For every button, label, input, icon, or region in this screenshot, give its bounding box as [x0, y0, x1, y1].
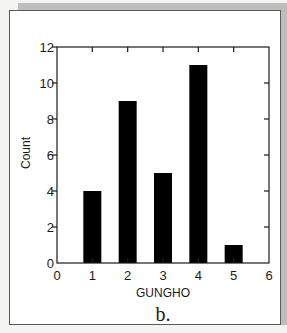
y-tick-label: 8: [47, 112, 54, 127]
bars-group: [83, 65, 242, 263]
bar-2: [119, 101, 137, 263]
x-tick-label: 6: [265, 268, 272, 283]
y-tick-label: 4: [47, 184, 54, 199]
figure-caption: b.: [156, 303, 171, 325]
x-tick-label: 1: [89, 268, 96, 283]
y-tick-label: 2: [47, 220, 54, 235]
x-tick-labels: 0123456: [53, 268, 272, 283]
x-tick-label: 3: [159, 268, 166, 283]
x-tick-label: 0: [53, 268, 60, 283]
bar-1: [83, 191, 101, 263]
y-tick-label: 0: [47, 256, 54, 271]
y-tick-label: 10: [40, 76, 54, 91]
bar-4: [189, 65, 207, 263]
y-tick-labels: 024681012: [40, 40, 54, 271]
x-tick-label: 4: [195, 268, 202, 283]
y-tick-label: 6: [47, 148, 54, 163]
y-tick-label: 12: [40, 40, 54, 55]
x-tick-label: 5: [230, 268, 237, 283]
y-axis-title: Count: [19, 136, 33, 169]
bar-3: [154, 173, 172, 263]
x-tick-label: 2: [124, 268, 131, 283]
x-axis-title: GUNGHO: [136, 286, 190, 300]
bar-chart: 0123456 024681012 GUNGHO Count b.: [0, 0, 287, 333]
